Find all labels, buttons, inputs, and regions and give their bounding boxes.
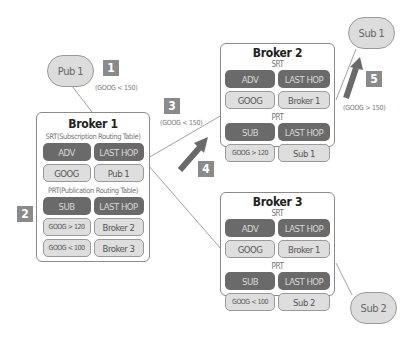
broker-1-title: Broker 1 [37,117,149,131]
sub2-label: Sub 2 [361,302,387,315]
prt-header-last-hop: LAST HOP [278,123,330,141]
prt-cell-sub: GOOG < 100 [43,239,91,257]
srt-header-adv: ADV [43,143,91,161]
broker-3-title: Broker 3 [221,195,334,209]
step-1-condition: (GOOG < 150) [95,84,137,92]
step-5-badge: 5 [366,71,382,87]
srt-header-last-hop: LAST HOP [94,143,144,161]
step-3-condition: (GOOG < 150) [160,119,202,127]
prt-header-sub: SUB [225,272,275,290]
sub1-label: Sub 1 [359,27,385,40]
broker-2-title: Broker 2 [221,46,334,60]
prt-cell-sub: GOOG < 100 [225,293,275,311]
prt-header-sub: SUB [225,123,275,141]
srt-cell-adv: GOOG [43,164,91,182]
broker-1-prt-label: PRT(Publication Routing Table) [37,186,149,195]
broker-2-srt-header: ADV LAST HOP [221,70,334,88]
broker-3: Broker 3 SRT ADV LAST HOP GOOG Broker 1 … [220,192,335,296]
prt-cell-sub: GOOG > 120 [43,218,91,236]
step-1-badge: 1 [103,60,119,76]
prt-cell-last-hop: Broker 3 [94,239,144,257]
sub2-node: Sub 2 [350,292,397,324]
broker-2-srt-row: GOOG Broker 1 [221,91,334,109]
broker-1-prt-row: GOOG > 120 Broker 2 [37,218,149,236]
srt-header-adv: ADV [225,70,275,88]
srt-header-adv: ADV [225,219,275,237]
broker-3-srt-label: SRT [221,209,334,218]
pub1-node: Pub 1 [47,55,94,87]
broker-1-srt-header: ADV LAST HOP [37,143,149,161]
broker-2: Broker 2 SRT ADV LAST HOP GOOG Broker 1 … [220,43,335,147]
arrow-step-5 [346,57,363,98]
srt-cell-last-hop: Pub 1 [94,164,144,182]
broker-2-prt-label: PRT [221,113,334,122]
prt-header-last-hop: LAST HOP [278,272,330,290]
step-4-badge: 4 [198,161,214,177]
broker-1-prt-header: SUB LAST HOP [37,197,149,215]
broker-3-prt-label: PRT [221,262,334,271]
srt-cell-last-hop: Broker 1 [278,91,330,109]
broker-1-srt-label: SRT(Subscription Routing Table) [37,132,149,141]
broker-1-prt-row: GOOG < 100 Broker 3 [37,239,149,257]
prt-cell-sub: GOOG > 120 [225,144,275,162]
srt-cell-last-hop: Broker 1 [278,240,330,258]
prt-header-sub: SUB [43,197,91,215]
srt-header-last-hop: LAST HOP [278,70,330,88]
prt-header-last-hop: LAST HOP [94,197,144,215]
srt-cell-adv: GOOG [225,91,275,109]
broker-3-srt-header: ADV LAST HOP [221,219,334,237]
step-3-badge: 3 [164,98,180,114]
broker-3-srt-row: GOOG Broker 1 [221,240,334,258]
step-5-condition: (GOOG > 150) [343,104,385,112]
sub1-node: Sub 1 [348,17,395,49]
broker-2-prt-header: SUB LAST HOP [221,123,334,141]
prt-cell-last-hop: Sub 1 [278,144,330,162]
broker-1-srt-row: GOOG Pub 1 [37,164,149,182]
prt-cell-last-hop: Sub 2 [278,293,330,311]
step-2-badge: 2 [17,206,33,222]
broker-1: Broker 1 SRT(Subscription Routing Table)… [36,112,150,262]
srt-header-last-hop: LAST HOP [278,219,330,237]
srt-cell-adv: GOOG [225,240,275,258]
prt-cell-last-hop: Broker 2 [94,218,144,236]
broker-2-srt-label: SRT [221,60,334,69]
broker-3-prt-header: SUB LAST HOP [221,272,334,290]
broker-3-prt-row: GOOG < 100 Sub 2 [221,293,334,311]
pub1-label: Pub 1 [58,65,83,78]
broker-2-prt-row: GOOG > 120 Sub 1 [221,144,334,162]
